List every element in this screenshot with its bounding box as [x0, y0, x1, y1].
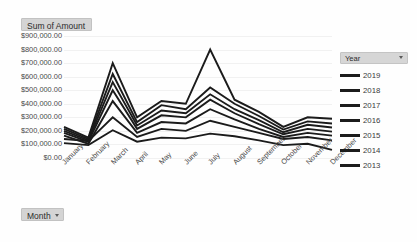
- y-tick-label: $100,000.00: [21, 140, 62, 148]
- legend-field-button[interactable]: Year: [340, 52, 408, 64]
- x-axis: JanuaryFebruaryMarchAprilMayJuneJulyAugu…: [56, 160, 346, 204]
- legend-swatch-icon: [340, 149, 360, 152]
- legend-item[interactable]: 2014: [340, 143, 408, 158]
- y-tick-label: $300,000.00: [21, 113, 62, 121]
- legend-item-label: 2017: [363, 101, 380, 110]
- y-tick-label: $900,000.00: [21, 32, 62, 40]
- legend-item-label: 2014: [363, 146, 380, 155]
- y-tick-label: $800,000.00: [21, 46, 62, 54]
- legend-item-label: 2013: [363, 161, 380, 170]
- legend-item-label: 2018: [363, 86, 380, 95]
- legend-item-label: 2016: [363, 116, 380, 125]
- y-tick-label: $400,000.00: [21, 100, 62, 108]
- y-tick-label: $600,000.00: [21, 73, 62, 81]
- y-tick-label: $500,000.00: [21, 86, 62, 94]
- legend-item[interactable]: 2013: [340, 158, 408, 173]
- legend-swatch-icon: [340, 119, 360, 122]
- y-tick-label: $700,000.00: [21, 59, 62, 67]
- legend-swatch-icon: [340, 104, 360, 107]
- axis-field-label: Month: [27, 211, 51, 221]
- legend-swatch-icon: [340, 164, 360, 167]
- legend-swatch-icon: [340, 74, 360, 77]
- legend-swatch-icon: [340, 134, 360, 137]
- chevron-down-icon[interactable]: [55, 214, 59, 217]
- legend-item[interactable]: 2017: [340, 98, 408, 113]
- legend-item-label: 2015: [363, 131, 380, 140]
- axis-field-button[interactable]: Month: [21, 208, 64, 221]
- legend-item[interactable]: 2016: [340, 113, 408, 128]
- legend-item[interactable]: 2015: [340, 128, 408, 143]
- y-tick-label: $200,000.00: [21, 127, 62, 135]
- legend-items: 2019201820172016201520142013: [340, 68, 408, 173]
- pivot-chart: Sum of Amount $900,000.00$800,000.00$700…: [0, 0, 417, 242]
- legend-field-label: Year: [345, 54, 360, 63]
- legend-item-label: 2019: [363, 71, 380, 80]
- legend-item[interactable]: 2018: [340, 83, 408, 98]
- legend-swatch-icon: [340, 89, 360, 92]
- y-axis: $900,000.00$800,000.00$700,000.00$600,00…: [8, 30, 62, 164]
- legend-item[interactable]: 2019: [340, 68, 408, 83]
- legend: Year 2019201820172016201520142013: [340, 52, 408, 173]
- chevron-down-icon[interactable]: [399, 56, 403, 59]
